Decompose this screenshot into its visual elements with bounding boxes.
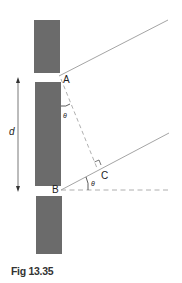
- barrier-middle: [35, 82, 61, 186]
- barrier-top: [34, 20, 60, 73]
- figure-caption: Fig 13.35: [11, 265, 53, 277]
- label-b: B: [52, 184, 59, 195]
- label-c: C: [101, 170, 108, 181]
- ray-from-b: [61, 133, 169, 190]
- separation-arrow: [16, 77, 20, 192]
- theta-arc-top: [61, 104, 70, 106]
- double-slit-diagram: d A B C θ θ: [0, 0, 182, 283]
- label-a: A: [63, 74, 70, 85]
- dashed-line-ac: [61, 79, 97, 168]
- ray-from-a: [59, 20, 168, 76]
- theta-arc-bottom: [86, 177, 88, 190]
- barrier-bottom: [36, 196, 62, 254]
- label-theta-top: θ: [63, 112, 67, 119]
- separation-label: d: [9, 126, 15, 137]
- label-theta-bottom: θ: [91, 180, 95, 187]
